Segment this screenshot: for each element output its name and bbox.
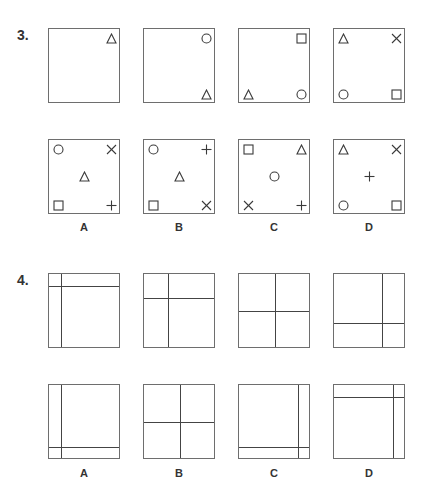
sequence-figure (48, 273, 120, 348)
square-icon (243, 144, 254, 155)
vertical-divider (382, 274, 383, 347)
triangle-icon (201, 89, 212, 100)
sequence-figure (333, 28, 405, 103)
plus-icon (201, 144, 212, 155)
question-number: 3. (17, 27, 29, 43)
triangle-icon (106, 33, 117, 44)
horizontal-divider (49, 286, 119, 287)
question-number: 4. (17, 272, 29, 288)
answer-option-b[interactable] (143, 384, 215, 459)
horizontal-divider (144, 422, 214, 423)
cross-x-icon (106, 144, 117, 155)
answer-label: C (238, 221, 310, 233)
sequence-figure (143, 273, 215, 348)
cross-x-icon (391, 33, 402, 44)
square-icon (53, 200, 64, 211)
answer-label: A (48, 467, 120, 479)
circle-icon (201, 33, 212, 44)
horizontal-divider (334, 323, 404, 324)
cross-x-icon (391, 144, 402, 155)
triangle-icon (338, 33, 349, 44)
plus-icon (296, 200, 307, 211)
sequence-figure (238, 273, 310, 348)
answer-option-a[interactable] (48, 139, 120, 214)
circle-icon (148, 144, 159, 155)
horizontal-divider (334, 397, 404, 398)
cross-x-icon (243, 200, 254, 211)
horizontal-divider (49, 447, 119, 448)
square-icon (296, 33, 307, 44)
answer-option-c[interactable] (238, 139, 310, 214)
answer-option-b[interactable] (143, 139, 215, 214)
square-icon (148, 200, 159, 211)
answer-label: A (48, 221, 120, 233)
triangle-icon (296, 144, 307, 155)
square-icon (391, 89, 402, 100)
square-icon (391, 200, 402, 211)
sequence-figure (48, 28, 120, 103)
answer-label: D (333, 221, 405, 233)
answer-option-a[interactable] (48, 384, 120, 459)
horizontal-divider (239, 311, 309, 312)
sequence-figure (238, 28, 310, 103)
answer-label: B (143, 467, 215, 479)
vertical-divider (393, 385, 394, 458)
answer-label: C (238, 467, 310, 479)
answer-option-d[interactable] (333, 139, 405, 214)
circle-icon (53, 144, 64, 155)
circle-icon (296, 89, 307, 100)
sequence-figure (333, 273, 405, 348)
triangle-icon (174, 171, 185, 182)
plus-icon (106, 200, 117, 211)
circle-icon (338, 200, 349, 211)
triangle-icon (338, 144, 349, 155)
horizontal-divider (239, 447, 309, 448)
vertical-divider (168, 274, 169, 347)
horizontal-divider (144, 298, 214, 299)
answer-label: B (143, 221, 215, 233)
plus-icon (364, 171, 375, 182)
answer-option-d[interactable] (333, 384, 405, 459)
cross-x-icon (201, 200, 212, 211)
vertical-divider (61, 274, 62, 347)
answer-label: D (333, 467, 405, 479)
circle-icon (338, 89, 349, 100)
answer-option-c[interactable] (238, 384, 310, 459)
circle-icon (269, 171, 280, 182)
triangle-icon (79, 171, 90, 182)
sequence-figure (143, 28, 215, 103)
triangle-icon (243, 89, 254, 100)
